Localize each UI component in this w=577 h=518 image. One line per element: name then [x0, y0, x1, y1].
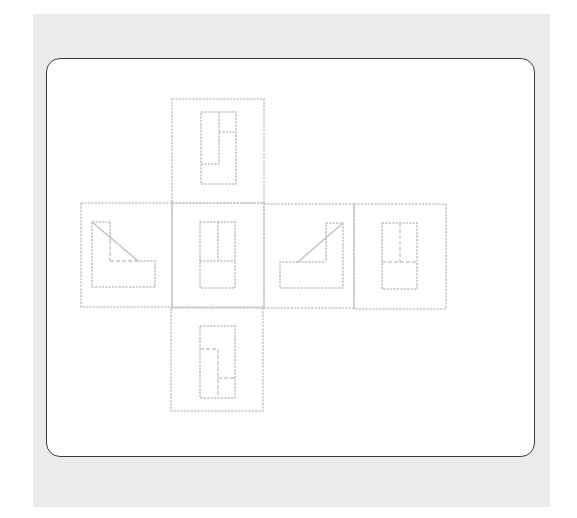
view-top: [172, 99, 264, 203]
view-front-outline: [200, 222, 235, 288]
view-rear: [354, 204, 446, 309]
view-bottom: [171, 308, 263, 411]
view-left-border: [81, 203, 172, 307]
page: [0, 0, 577, 518]
projection-drawing: [0, 0, 577, 518]
view-left: [81, 203, 172, 307]
view-left-outline: [92, 222, 155, 287]
view-right: [264, 204, 354, 308]
view-top-border: [172, 99, 264, 203]
view-right-slope-line: [298, 223, 343, 262]
view-front-border: [172, 203, 264, 307]
view-right-outline: [280, 223, 343, 288]
view-left-slope-line: [92, 222, 138, 261]
view-bottom-border: [171, 308, 263, 411]
view-right-border: [264, 204, 354, 308]
view-front: [172, 203, 264, 307]
